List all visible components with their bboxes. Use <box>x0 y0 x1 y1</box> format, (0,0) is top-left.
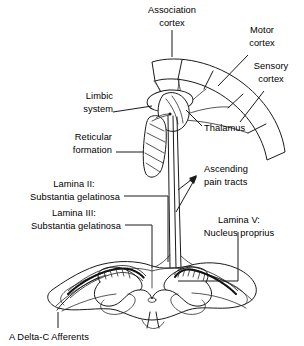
label-lamina-iii-line2: Substantia gelatinosa <box>31 221 122 231</box>
label-reticular-formation-line1: Reticular <box>75 132 112 142</box>
label-association-cortex-line2: cortex <box>159 18 185 28</box>
label-lamina-ii-line2: Substantia gelatinosa <box>30 192 121 202</box>
leader-limbic-system <box>113 106 152 112</box>
label-motor-cortex-line1: Motor <box>250 25 274 35</box>
label-sensory-cortex-line1: Sensory <box>254 61 289 71</box>
label-lamina-v-line2: Nucleus proprius <box>204 228 275 238</box>
label-association-cortex-line1: Association <box>148 5 196 15</box>
label-thalamus: Thalamus <box>204 123 246 133</box>
label-lamina-v-line1: Lamina V: <box>218 215 260 225</box>
pain-pathway-figure: Association cortex Motor cortex Sensory … <box>0 0 304 346</box>
tract-line-right <box>177 117 181 268</box>
label-limbic-system-line1: Limbic <box>86 91 113 101</box>
label-ascending-pain-tracts-line2: pain tracts <box>204 177 248 187</box>
spinal-cord-cross-section <box>48 262 257 329</box>
label-lamina-iii-line1: Lamina III: <box>52 208 96 218</box>
label-sensory-cortex-line2: cortex <box>258 74 284 84</box>
label-reticular-formation-line2: formation <box>73 145 112 155</box>
label-lamina-ii-line1: Lamina II: <box>53 179 94 189</box>
leader-lamina-ii <box>124 196 168 262</box>
label-ascending-pain-tracts-line1: Ascending <box>204 164 248 174</box>
reticular-formation-body <box>143 114 169 177</box>
tract-line-mid <box>173 116 176 268</box>
diagram-canvas: Association cortex Motor cortex Sensory … <box>0 0 304 346</box>
label-motor-cortex-line2: cortex <box>249 38 275 48</box>
label-limbic-system-line2: system <box>83 104 113 114</box>
ventral-fissure-base <box>142 320 164 329</box>
label-a-delta-c-afferents: A Delta-C Afferents <box>9 332 89 342</box>
